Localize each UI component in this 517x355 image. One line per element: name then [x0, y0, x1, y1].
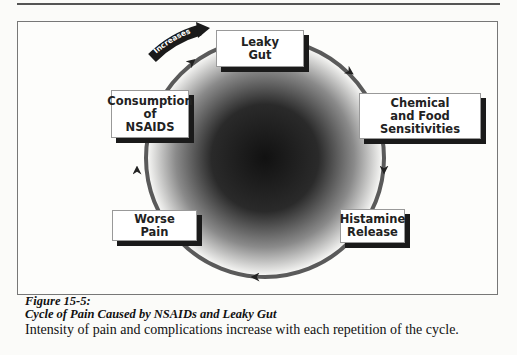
node-text: Release: [347, 225, 398, 239]
node-text: Leaky: [241, 35, 279, 49]
increases-arrow: Increases: [152, 22, 210, 58]
node-text: Chemical: [391, 96, 450, 110]
node-text: Sensitivities: [380, 122, 460, 136]
node-histamine-release: HistamineRelease: [340, 209, 405, 243]
figure-caption: Figure 15-5: Cycle of Pain Caused by NSA…: [25, 295, 495, 338]
node-text: Pain: [140, 225, 168, 239]
node-text: Consumption: [107, 94, 192, 108]
node-worse-pain: WorsePain: [112, 210, 197, 241]
node-leaky-gut: LeakyGut: [216, 30, 304, 67]
node-text: NSAIDS: [126, 120, 175, 134]
node-text: of: [144, 107, 157, 121]
node-consumption-nsaids: ConsumptionofNSAIDS: [111, 90, 189, 138]
node-text: Gut: [248, 48, 271, 62]
node-text: and Food: [390, 109, 450, 123]
figure-description: Intensity of pain and complications incr…: [25, 321, 495, 338]
figure-title: Cycle of Pain Caused by NSAIDs and Leaky…: [25, 308, 495, 321]
node-text: Histamine: [340, 212, 406, 226]
node-text: Worse: [134, 212, 175, 226]
node-chemical-food: Chemicaland FoodSensitivities: [359, 93, 481, 139]
page-marks: [20, 350, 80, 355]
